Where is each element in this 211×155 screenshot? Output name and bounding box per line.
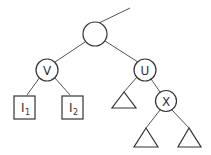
subtree-triangle-x-right — [178, 128, 201, 147]
node-v: V — [36, 59, 58, 81]
edge-u-t1 — [124, 77, 137, 92]
edge-v-i1 — [27, 77, 40, 95]
leaf-i2: I 2 — [62, 96, 83, 119]
subtree-triangle-u-left — [112, 92, 136, 108]
leaf-i1: I 1 — [14, 96, 35, 119]
tree-diagram: V U I 1 I 2 X — [0, 0, 211, 155]
leaf-i2-label: I — [69, 101, 73, 115]
leaf-i1-label: I — [21, 101, 25, 115]
edge-root-v — [55, 42, 85, 62]
edge-parent-root — [99, 8, 130, 23]
edge-x-t3 — [172, 110, 189, 128]
root-node — [83, 22, 107, 46]
node-u-label: U — [141, 64, 150, 78]
edge-x-t2 — [146, 110, 160, 128]
node-u: U — [134, 59, 156, 81]
leaf-i1-subscript: 1 — [25, 108, 30, 117]
node-x: X — [156, 91, 177, 112]
edge-u-x — [151, 79, 160, 92]
subtree-triangle-x-left — [134, 128, 158, 147]
node-v-label: V — [43, 64, 52, 78]
node-x-label: X — [162, 95, 170, 109]
edge-v-i2 — [54, 77, 70, 95]
leaf-i2-subscript: 2 — [73, 108, 78, 117]
edge-root-u — [105, 41, 138, 62]
